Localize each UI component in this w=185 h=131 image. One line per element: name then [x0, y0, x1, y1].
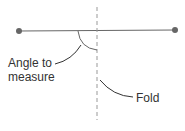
angle-leader: [55, 45, 81, 64]
left-endpoint-dot: [16, 28, 22, 34]
angle-label-line1: Angle to: [8, 56, 55, 70]
angle-arc: [78, 31, 97, 50]
angle-label: Angle to measure: [8, 56, 55, 84]
angle-label-line2: measure: [8, 70, 55, 84]
right-endpoint-dot: [172, 27, 178, 33]
fold-leader: [100, 80, 133, 97]
fold-label: Fold: [136, 91, 159, 105]
